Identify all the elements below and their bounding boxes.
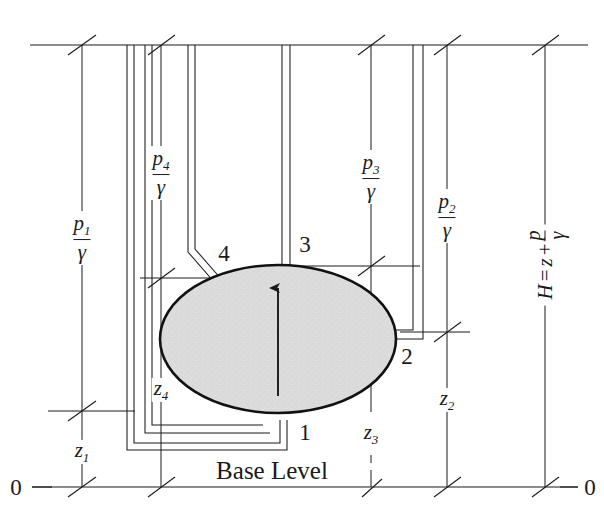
elevation-head-z2: z2 (438, 388, 457, 412)
pressure-head-p1: p1 γ (71, 211, 94, 265)
total-head-plus: + (533, 243, 558, 255)
total-head-equals: = (533, 270, 558, 282)
z1-subscript: 1 (83, 450, 90, 465)
p2-subscript: 2 (449, 201, 456, 216)
z4-symbol: z (154, 376, 162, 400)
elevation-head-z1: z1 (73, 440, 92, 464)
pressure-head-p3: p3 γ (360, 150, 383, 204)
p1-numerator: p (74, 211, 85, 235)
pressure-head-p2: p2 γ (436, 189, 459, 243)
p3-subscript: 3 (373, 162, 380, 177)
datum-zero-right: 0 (584, 476, 596, 499)
z2-symbol: z (440, 386, 448, 410)
point-label-2: 2 (399, 345, 415, 368)
elevation-head-z3: z3 (362, 422, 381, 446)
p4-denominator: γ (153, 176, 170, 199)
total-head-frac-num: p (523, 230, 544, 240)
dimension-line-p1-z1 (48, 35, 135, 497)
pressure-head-p4: p4 γ (150, 146, 173, 200)
total-head-frac-den: γ (547, 230, 568, 240)
p2-denominator: γ (439, 219, 456, 242)
point-label-3: 3 (297, 233, 313, 256)
p1-denominator: γ (74, 241, 91, 264)
dimension-line-p3-z3 (300, 35, 420, 497)
p4-subscript: 4 (163, 158, 170, 173)
total-head-expression: H = z + p γ (520, 224, 571, 305)
total-head-fraction: p γ (523, 230, 568, 240)
p3-numerator: p (363, 150, 374, 174)
p1-subscript: 1 (84, 223, 91, 238)
elevation-head-z4: z4 (152, 378, 171, 402)
p4-numerator: p (153, 146, 164, 170)
dimension-line-p4-z4 (140, 35, 230, 497)
z2-subscript: 2 (448, 398, 455, 413)
z4-subscript: 4 (162, 388, 169, 403)
datum-zero-left: 0 (10, 476, 22, 499)
point-label-4: 4 (216, 242, 232, 265)
total-head-symbol: H (533, 284, 558, 299)
p2-numerator: p (439, 189, 450, 213)
point-label-1: 1 (297, 421, 313, 444)
base-level-caption: Base Level (212, 458, 332, 483)
z1-symbol: z (75, 438, 83, 462)
total-head-z-term: z (533, 258, 558, 266)
p3-denominator: γ (363, 180, 380, 203)
z3-symbol: z (364, 420, 372, 444)
piezometric-head-diagram: p1 γ z1 p4 γ z4 p3 γ z3 p2 γ z2 1 2 3 4 … (0, 0, 604, 531)
piezometer-tube-2 (393, 45, 423, 339)
z3-subscript: 3 (372, 432, 379, 447)
piezometer-tube-3 (282, 45, 290, 268)
